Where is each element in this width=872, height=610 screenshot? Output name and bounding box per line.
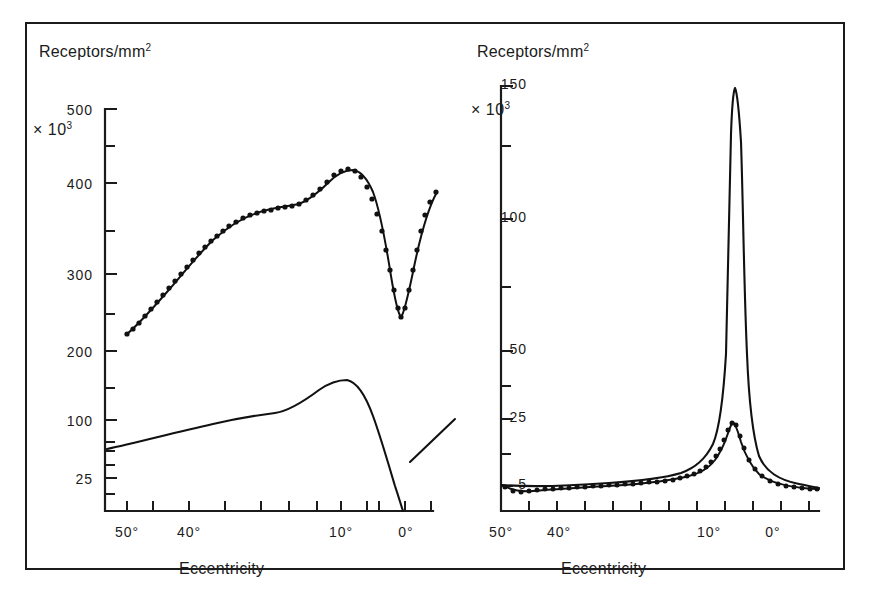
chart-panel-left: Receptors/mm2 × 103 500 400 300 200 100 … — [27, 24, 459, 572]
figure-root: Receptors/mm2 × 103 500 400 300 200 100 … — [0, 0, 872, 610]
series-rods-right — [502, 421, 820, 495]
rod-data-points-right — [503, 421, 820, 495]
y-ticks-left — [105, 109, 117, 494]
rod-data-points-left — [124, 166, 438, 336]
chart-panel-right: Receptors/mm2 × 103 150 100 50 25 5 50° … — [459, 24, 847, 572]
y-ticks-right — [501, 86, 513, 486]
series-cones-peak-right — [502, 88, 819, 488]
axis-lines-right — [501, 86, 819, 511]
x-ticks-left — [127, 501, 431, 511]
x-ticks-right — [501, 501, 809, 511]
series-cones-nasal-segment-left — [410, 419, 455, 462]
figure-frame: Receptors/mm2 × 103 500 400 300 200 100 … — [25, 22, 845, 570]
plot-right — [459, 24, 847, 572]
series-cones-left — [107, 380, 455, 511]
plot-left — [27, 24, 459, 572]
series-rods-left — [124, 166, 438, 336]
